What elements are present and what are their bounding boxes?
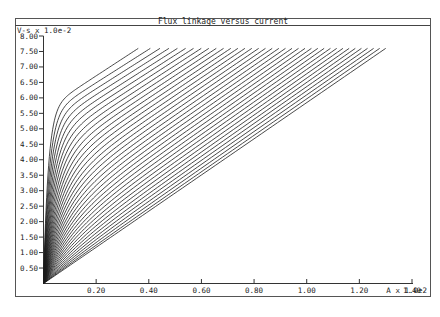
chart-frame: Flux linkage versus current V-s x 1.0e-2… [0,0,440,317]
y-tick-label: 2.50 [20,202,39,211]
y-tick-label: 1.00 [20,248,39,257]
x-tick-label: 1.20 [350,286,369,295]
y-tick-label: 0.50 [20,264,39,273]
y-tick-label: 4.00 [20,155,39,164]
y-tick-label: 5.00 [20,124,39,133]
y-tick-label: 3.00 [20,186,39,195]
y-tick-label: 8.00 [20,32,39,41]
y-tick-label: 7.00 [20,62,39,71]
x-tick-label: 0.20 [87,286,106,295]
y-tick-label: 7.50 [20,47,39,56]
x-tick-label: 1.40 [403,286,422,295]
chart-title: Flux linkage versus current [158,17,288,26]
y-tick-label: 2.00 [20,217,39,226]
y-tick-label: 1.50 [20,233,39,242]
y-tick-label: 4.50 [20,140,39,149]
x-tick-label: 0.40 [140,286,159,295]
y-tick-label: 6.50 [20,78,39,87]
y-tick-label: 6.00 [20,93,39,102]
y-tick-label: 3.50 [20,171,39,180]
x-tick-label: 0.60 [192,286,211,295]
x-tick-label: 0.80 [245,286,264,295]
x-tick-label: 1.00 [298,286,317,295]
y-tick-label: 5.50 [20,109,39,118]
